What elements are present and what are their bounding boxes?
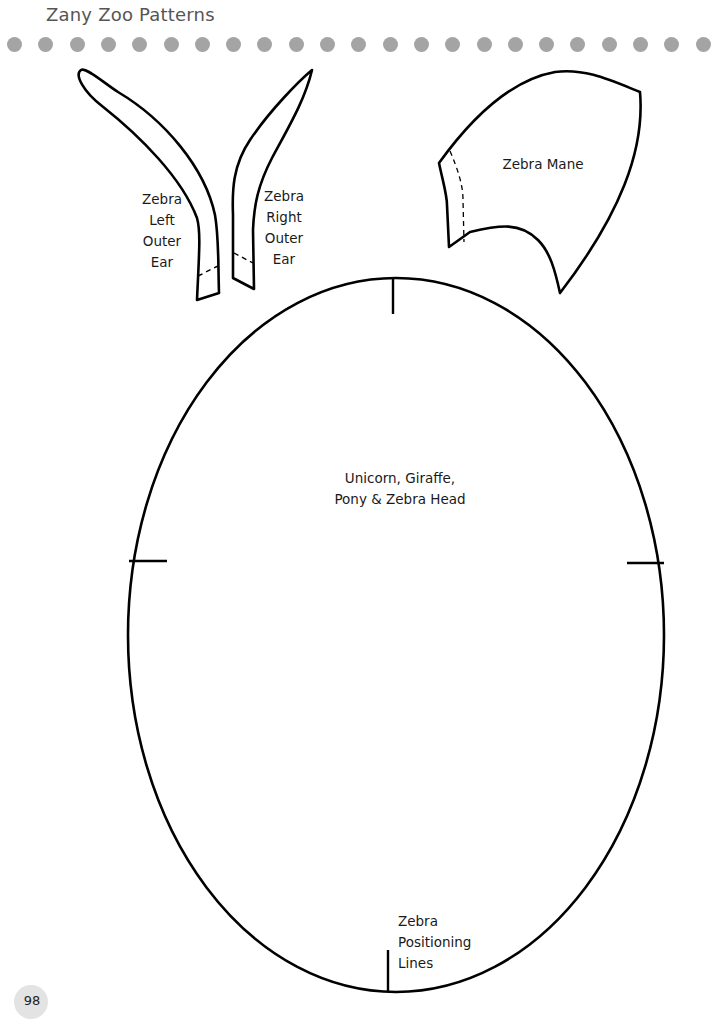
- label-line: Lines: [398, 953, 471, 974]
- mane-pattern: [439, 71, 641, 293]
- label-line: Ear: [136, 252, 188, 273]
- label-line: Right: [258, 207, 310, 228]
- positioning-lines-label: Zebra Positioning Lines: [398, 911, 471, 974]
- label-line: Zebra: [258, 186, 310, 207]
- label-line: Outer: [258, 228, 310, 249]
- head-pattern: [128, 278, 664, 992]
- label-line: Left: [136, 210, 188, 231]
- label-line: Ear: [258, 249, 310, 270]
- label-line: Outer: [136, 231, 188, 252]
- label-line: Unicorn, Giraffe,: [300, 468, 500, 489]
- left-ear-label: Zebra Left Outer Ear: [136, 189, 188, 273]
- right-ear-label: Zebra Right Outer Ear: [258, 186, 310, 270]
- label-line: Zebra: [136, 189, 188, 210]
- label-line: Pony & Zebra Head: [300, 489, 500, 510]
- page-number: 98: [17, 993, 47, 1008]
- label-line: Positioning: [398, 932, 471, 953]
- mane-label: Zebra Mane: [493, 154, 593, 175]
- label-line: Zebra: [398, 911, 471, 932]
- head-label: Unicorn, Giraffe, Pony & Zebra Head: [300, 468, 500, 510]
